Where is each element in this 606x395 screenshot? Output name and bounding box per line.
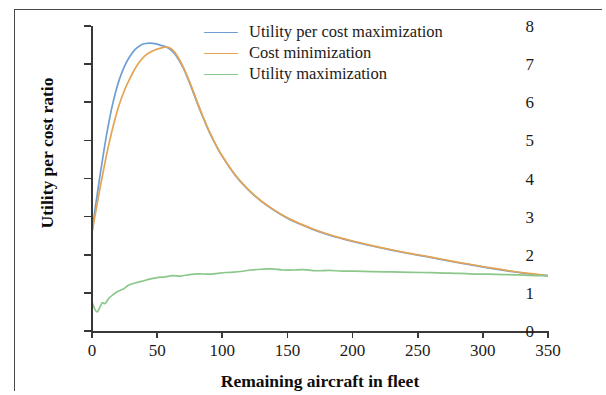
legend-color-swatch [204, 74, 238, 76]
x-tick-mark [352, 331, 354, 338]
x-tick-mark [482, 331, 484, 338]
x-tick-label: 50 [149, 342, 166, 359]
x-tick-label: 100 [210, 342, 236, 359]
x-tick-mark [221, 331, 223, 338]
x-tick-mark [156, 331, 158, 338]
x-tick-label: 150 [275, 342, 301, 359]
y-tick-label: 7 [526, 56, 535, 73]
y-tick-mark [84, 216, 91, 218]
x-tick-label: 300 [470, 342, 496, 359]
x-axis-line [91, 331, 549, 333]
y-axis-title: Utility per cost ratio [37, 77, 58, 228]
legend-item[interactable]: Utility per cost maximization [204, 22, 443, 43]
legend-label: Utility per cost maximization [249, 24, 443, 41]
chart-figure: Utility per cost ratio 012345678 0501001… [0, 0, 606, 395]
y-tick-label: 0 [526, 323, 535, 340]
y-tick-mark [84, 178, 91, 180]
x-tick-label: 250 [405, 342, 431, 359]
y-tick-mark [84, 25, 91, 27]
legend-label: Cost minimization [249, 45, 371, 62]
y-tick-label: 8 [526, 18, 535, 35]
legend-item[interactable]: Cost minimization [204, 43, 443, 64]
legend-item[interactable]: Utility maximization [204, 64, 443, 85]
x-tick-mark [547, 331, 549, 338]
y-tick-label: 3 [526, 208, 535, 225]
chart-legend: Utility per cost maximizationCost minimi… [204, 22, 443, 85]
y-tick-mark [84, 254, 91, 256]
legend-label: Utility maximization [249, 66, 387, 83]
x-tick-mark [417, 331, 419, 338]
y-tick-label: 4 [526, 170, 535, 187]
legend-color-swatch [204, 53, 238, 55]
y-tick-label: 5 [526, 132, 535, 149]
x-tick-label: 350 [535, 342, 561, 359]
y-tick-mark [84, 330, 91, 332]
y-tick-mark [84, 292, 91, 294]
series-line [92, 269, 548, 312]
y-axis-line [91, 26, 93, 332]
x-tick-mark [91, 331, 93, 338]
legend-color-swatch [204, 32, 238, 34]
y-tick-mark [84, 63, 91, 65]
y-tick-label: 6 [526, 94, 535, 111]
y-tick-label: 2 [526, 246, 535, 263]
x-axis-title: Remaining aircraft in fleet [92, 371, 548, 392]
y-axis-title-wrap: Utility per cost ratio [34, 0, 60, 305]
y-tick-mark [84, 140, 91, 142]
y-tick-label: 1 [526, 284, 535, 301]
x-tick-label: 200 [340, 342, 366, 359]
y-tick-mark [84, 101, 91, 103]
x-tick-label: 0 [88, 342, 97, 359]
x-tick-mark [287, 331, 289, 338]
